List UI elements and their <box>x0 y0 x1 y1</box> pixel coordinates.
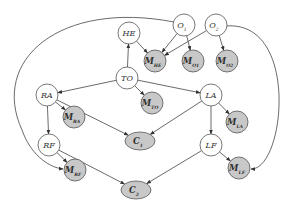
edge-ra-to-rf <box>47 106 48 134</box>
node-mlf: MLF <box>228 157 250 179</box>
node-lf: LF <box>200 134 222 156</box>
node-o2: O2 <box>205 14 227 36</box>
edge-to-to-ra <box>58 80 116 92</box>
node-label: TO <box>121 74 133 83</box>
node-ra: RA <box>36 84 58 106</box>
edge-he-to-mhe <box>136 41 147 53</box>
edge-lf-to-c2 <box>147 151 202 184</box>
node-label: RA <box>40 91 53 100</box>
edge-o1-to-mo1 <box>187 36 191 51</box>
node-mo2: MO2 <box>216 50 238 72</box>
edge-la-to-mla <box>219 103 230 114</box>
node-mla: MLA <box>226 111 248 133</box>
node-label: LA <box>204 91 216 100</box>
node-label: HE <box>122 29 136 38</box>
edge-rf-to-mrf <box>57 153 67 163</box>
node-c1: C1 <box>125 132 155 150</box>
edge-o2-to-mo2 <box>219 36 224 51</box>
node-label: LF <box>205 141 217 150</box>
node-rf: RF <box>38 134 60 156</box>
node-mrf: MRF <box>64 159 86 181</box>
nodes-layer: HEO1O2MHEMO1MO2TORAMTOLAMRAMLAC1RFLFMRFM… <box>36 14 250 199</box>
bayesian-network-diagram: HEO1O2MHEMO1MO2TORAMTOLAMRAMLAC1RFLFMRFM… <box>0 0 297 207</box>
edge-o2-to-mlf <box>226 26 279 169</box>
node-mra: MRA <box>63 106 85 128</box>
edge-lf-to-mlf <box>219 152 230 161</box>
node-mhe: MHE <box>143 50 166 72</box>
edge-to-to-he <box>127 44 128 67</box>
edge-to-to-la <box>138 80 200 93</box>
node-c2: C2 <box>121 181 151 199</box>
edge-to-to-mto <box>135 86 144 95</box>
node-mto: MTO <box>141 92 163 114</box>
node-to: TO <box>116 67 138 89</box>
node-la: LA <box>200 84 222 106</box>
node-o1: O1 <box>173 14 195 36</box>
node-label: RF <box>42 141 55 150</box>
node-he: HE <box>118 22 140 44</box>
node-mo1: MO1 <box>182 50 204 72</box>
